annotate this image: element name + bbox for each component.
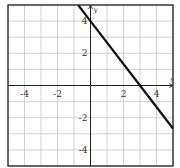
axes bbox=[8, 5, 173, 166]
x-tick-label: -2 bbox=[53, 89, 62, 99]
x-tick-label: 4 bbox=[154, 89, 160, 99]
x-tick-label: 2 bbox=[121, 89, 127, 99]
y-tick-label: 2 bbox=[82, 48, 88, 58]
data-line bbox=[78, 5, 173, 128]
plotted-line bbox=[78, 5, 173, 128]
x-tick-label: -4 bbox=[20, 89, 29, 99]
y-axis-label: y bbox=[93, 6, 99, 14]
y-tick-label: -4 bbox=[79, 145, 88, 155]
coordinate-plane: -4-22442-2-4 x y bbox=[0, 0, 180, 168]
x-axis-label: x bbox=[170, 76, 174, 84]
y-tick-label: -2 bbox=[79, 113, 88, 123]
